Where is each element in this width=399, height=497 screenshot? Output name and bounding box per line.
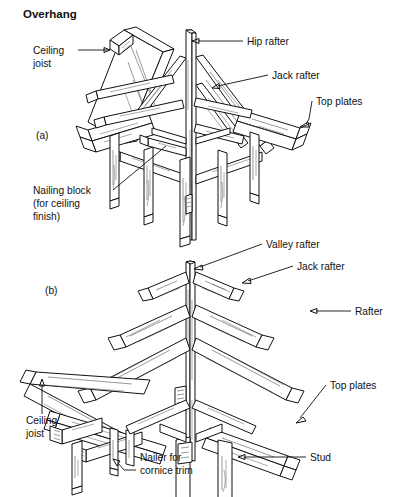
label-top-plates-a-line1: Top plates: [316, 96, 362, 107]
label-jack-rafter-b-line1: Jack rafter: [297, 261, 345, 272]
label-hip-rafter-a-line1: Hip rafter: [247, 36, 290, 47]
label-nailer-line1: Nailer for: [140, 452, 182, 463]
overhang-figure: Overhang (a): [0, 0, 399, 497]
label-nailing-block-line2: (for ceiling: [33, 198, 80, 209]
label-ceiling-joist-a-line2: joist: [32, 58, 51, 69]
label-valley-rafter-line1: Valley rafter: [266, 239, 320, 250]
label-jack-rafter-a-line1: Jack rafter: [272, 70, 320, 81]
page-title: Overhang: [23, 8, 77, 20]
label-nailing-block-line1: Nailing block: [33, 185, 92, 196]
label-rafter-line1: Rafter: [355, 306, 383, 317]
label-nailer-line2: cornice trim: [140, 465, 193, 476]
label-ceiling-joist-b-line2: joist: [25, 428, 44, 439]
label-top-plates-b-line1: Top plates: [330, 380, 376, 391]
label-ceiling-joist-b-line1: Ceiling: [26, 415, 57, 426]
label-ceiling-joist-a-line1: Ceiling: [33, 45, 64, 56]
label-nailing-block-line3: finish): [33, 211, 60, 222]
panel-a-marker: (a): [36, 130, 48, 141]
label-stud-line1: Stud: [310, 452, 331, 463]
panel-b-marker: (b): [45, 285, 57, 296]
